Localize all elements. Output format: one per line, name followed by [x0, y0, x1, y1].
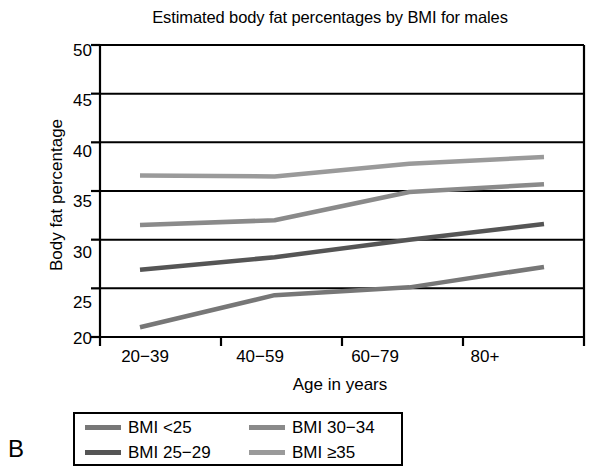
legend-label: BMI ≥35 [292, 444, 355, 461]
series-line-0 [140, 267, 544, 327]
legend-label: BMI 30−34 [292, 419, 375, 436]
x-tick-marks [100, 337, 584, 346]
legend-item-bmi-25-29: BMI 25−29 [77, 440, 241, 465]
figure-panel-b: Estimated body fat percentages by BMI fo… [0, 0, 590, 472]
legend: BMI <25 BMI 30−34 BMI 25−29 BMI ≥35 [73, 412, 403, 466]
legend-item-bmi-30-34: BMI 30−34 [241, 415, 405, 440]
series-line-1 [140, 224, 544, 270]
legend-swatch-icon [249, 450, 285, 455]
legend-label: BMI 25−29 [128, 444, 211, 461]
legend-item-bmi-35-plus: BMI ≥35 [241, 440, 405, 465]
gridlines [100, 94, 584, 337]
series-line-3 [140, 157, 544, 176]
legend-item-bmi-under-25: BMI <25 [77, 415, 241, 440]
legend-label: BMI <25 [128, 419, 192, 436]
plot-area [0, 0, 590, 400]
legend-swatch-icon [85, 425, 121, 430]
panel-label: B [8, 437, 24, 461]
legend-swatch-icon [85, 450, 121, 455]
y-tick-marks [91, 45, 100, 337]
legend-swatch-icon [249, 425, 285, 430]
data-series-group [140, 157, 544, 327]
